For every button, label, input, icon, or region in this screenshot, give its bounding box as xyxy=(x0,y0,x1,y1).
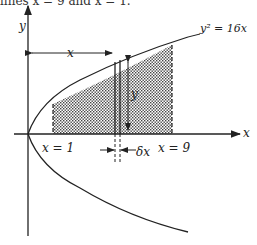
x-axis-label: x xyxy=(243,127,250,139)
diagram-container: lines x = 9 and x = 1. xyxy=(0,0,257,245)
height-label: y xyxy=(131,88,138,100)
parabola-diagram xyxy=(0,0,257,245)
lower-bound-label: x = 1 xyxy=(42,142,74,154)
curve-equation-label: y² = 16x xyxy=(200,23,247,34)
upper-bound-label: x = 9 xyxy=(158,142,190,154)
distance-label: x xyxy=(67,47,74,59)
strip-width-label: δx xyxy=(136,146,150,158)
y-axis-label: y xyxy=(19,20,26,32)
